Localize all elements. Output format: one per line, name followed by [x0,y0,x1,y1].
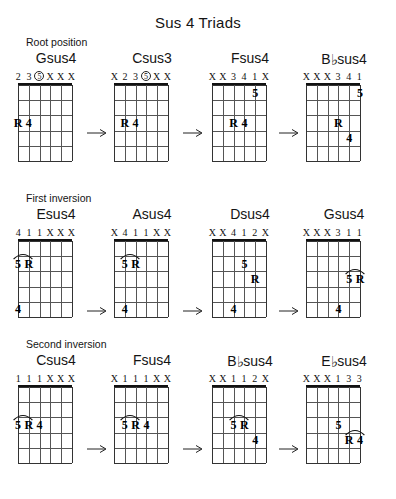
fingering-marker: 1 [343,227,354,238]
string-line [40,241,41,317]
string-line [223,85,224,161]
fret-line [306,463,360,464]
fret-line [18,402,72,403]
muted-string-marker: X [151,71,162,82]
transition-arrow-icon [182,306,204,316]
fingering-markers: X411XX [109,227,173,238]
string-line [244,241,245,317]
fret-line [306,287,360,288]
muted-string-marker: X [45,227,56,238]
string-line [317,241,318,317]
fret-line [114,146,168,147]
fingering-marker: 2 [249,227,260,238]
fingering-marker: 3 [130,71,141,82]
fret-lines: 5R4 [114,387,168,463]
root-note-label: R [229,117,238,129]
fingering-marker: 2 [249,373,260,384]
fret-line [18,463,72,464]
fret-line [306,302,360,303]
fret-line [212,463,266,464]
fret-lines: R4 [114,85,168,161]
string-line [114,241,115,317]
root-note-label: R [24,258,33,270]
fret-line [212,287,266,288]
fretboard-grid: R4 [114,83,168,161]
muted-string-marker: X [312,373,323,384]
chord-name-text: Asus4 [133,206,172,222]
fingering-markers: XX341X [207,71,271,82]
fingering-marker: 1 [249,71,260,82]
fifth-note-label: 5 [15,419,21,431]
fret-line [18,131,72,132]
chord-root-letter: B [227,353,236,369]
fretboard-grid: 5R4 [212,385,266,463]
transition-arrow-icon [278,128,300,138]
chord-name: Csus3 [110,50,194,66]
string-line [328,241,329,317]
string-line [306,387,307,463]
fret-lines: 5R4 [18,241,72,317]
fret-line [306,402,360,403]
root-note-label: R [356,273,365,285]
muted-string-marker: X [218,227,229,238]
fretboard-grid: 5R4 [18,385,72,463]
fingering-marker: 1 [24,373,35,384]
fifth-note-label: 5 [15,258,21,270]
fourth-note-label: 4 [241,117,247,129]
fifth-note-label: 5 [335,419,341,431]
muted-string-marker: X [162,373,173,384]
fret-lines: 5R4 [212,241,266,317]
fret-line [212,100,266,101]
muted-string-marker: X [207,373,218,384]
fingering-marker: 5 [141,71,152,82]
fingering-markers: XXX311 [301,227,365,238]
chord-quality-text: sus4 [337,51,367,67]
string-line [61,387,62,463]
fingering-marker: 1 [354,71,365,82]
fret-line [18,161,72,162]
string-line [50,85,51,161]
fret-lines: 5R4 [306,241,360,317]
fingering-markers: XX412X [207,227,271,238]
root-note-label: R [131,419,140,431]
fret-lines: 5R4 [306,387,360,463]
chord-name: Fsus4 [208,50,292,66]
string-line [266,241,267,317]
fingering-marker: 1 [130,373,141,384]
fingering-marker: 4 [239,71,250,82]
fingering-markers: X111XX [109,373,173,384]
chord-name: B♭sus4 [208,352,292,370]
fingering-marker: 4 [120,227,131,238]
fretboard-grid: 5R4 [306,385,360,463]
fret-line [212,387,266,388]
fifth-note-label: 5 [252,87,258,99]
fingering-marker: 1 [141,373,152,384]
fifth-note-label: 5 [122,419,128,431]
page-title: Sus 4 Triads [0,14,396,31]
string-line [212,387,213,463]
fret-line [306,241,360,242]
chord-name-text: Fsus4 [231,50,269,66]
section-label-root-position: Root position [26,36,87,48]
fret-line [114,85,168,86]
chord-name: Gsus4 [302,206,386,222]
fret-line [212,302,266,303]
string-line [306,241,307,317]
fret-line [212,115,266,116]
muted-string-marker: X [301,373,312,384]
string-line [146,85,147,161]
fret-line [18,287,72,288]
chord-name-text: Gsus4 [324,206,364,222]
transition-arrow-icon [182,444,204,454]
fingering-marker: 1 [130,227,141,238]
string-line [114,387,115,463]
root-note-label: R [345,434,354,446]
fret-line [114,317,168,318]
chord-quality-text: sus4 [243,353,273,369]
fretboard-grid: 5R4 [212,83,266,161]
string-line [61,85,62,161]
fret-line [306,161,360,162]
muted-string-marker: X [45,373,56,384]
fret-lines: 5R4 [18,387,72,463]
fret-line [306,146,360,147]
